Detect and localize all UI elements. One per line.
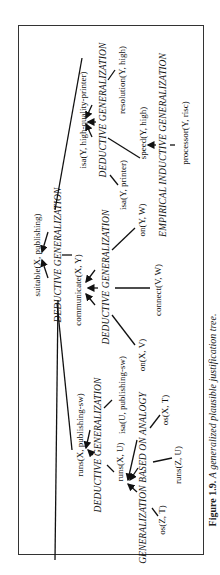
- node-resolution: resolution(Y, high): [117, 46, 127, 114]
- node-runs-z-u: runs(Z, U): [173, 446, 183, 484]
- node-root-suitable: suitable(X, publishing): [32, 214, 42, 297]
- figure-caption: Figure 1.9. A generalized plausible just…: [207, 314, 218, 527]
- rule-empirical-inductive-generalization: EMPIRICAL INDUCTIVE GENERALIZATION: [158, 53, 168, 237]
- edge-on-xv: [112, 315, 135, 345]
- edge-root-runs-pub: [57, 303, 72, 450]
- node-isa-high-quality-printer: isa(Y, high-quality-printer): [78, 72, 88, 169]
- node-on-y-w: on(Y, W): [137, 203, 147, 236]
- edge-runs-xu: [107, 465, 114, 472]
- node-os-x-t: os(X, T): [160, 395, 170, 425]
- node-isa-publishing-sw: isa(U, publishing-sw): [117, 356, 127, 434]
- node-on-x-v: on(X, V): [137, 339, 147, 371]
- node-runs-x-u: runs(X, U): [115, 443, 125, 482]
- node-communicate: communicate(X, Y): [73, 254, 83, 326]
- node-os-z-t: os(Z, T): [157, 505, 167, 534]
- rule-deductive-generalization-root: DEDUCTIVE GENERALIZATION: [53, 188, 63, 323]
- node-isa-printer: isa(Y, printer): [118, 160, 128, 210]
- edge-on-yw: [112, 228, 135, 250]
- edge-os-xt: [150, 415, 160, 428]
- edge-isa-pubsw: [104, 400, 112, 408]
- edge-isa-printer: [110, 175, 118, 185]
- caption-number: Figure 1.9.: [207, 481, 218, 527]
- rule-generalization-based-on-analogy: GENERALIZATION BASED ON ANALOGY: [138, 392, 148, 564]
- edge-speed: [108, 138, 140, 158]
- node-speed: speed(Y, high): [138, 107, 148, 159]
- edge-runs-zu: [153, 458, 172, 462]
- node-connect: connect(V, W): [153, 264, 163, 316]
- rule-deductive-generalization-runs: DEDUCTIVE GENERALIZATION: [93, 378, 103, 513]
- rule-deductive-generalization-comm: DEDUCTIVE GENERALIZATION: [101, 210, 111, 345]
- caption-text: A generalized plausible justification tr…: [207, 314, 218, 479]
- rule-deductive-generalization-hqp: DEDUCTIVE GENERALIZATION: [98, 43, 108, 178]
- edge-resolution: [108, 70, 115, 80]
- node-runs-publishing-sw: runs(X, publishing-sw): [75, 393, 85, 477]
- node-processor: processor(Y, risc): [180, 101, 190, 164]
